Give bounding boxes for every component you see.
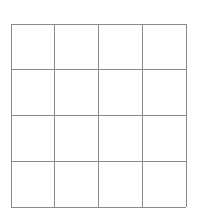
grid-lines: [11, 24, 187, 208]
grid-diagram: [0, 0, 198, 216]
